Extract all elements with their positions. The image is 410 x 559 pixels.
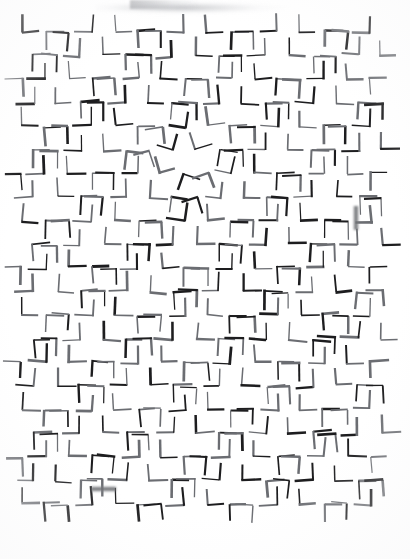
corner-mark-arm-horizontal bbox=[238, 127, 254, 128]
corner-mark-arm-vertical bbox=[167, 32, 183, 33]
corner-mark-arm-vertical bbox=[196, 291, 197, 306]
corner-mark-arm-horizontal bbox=[383, 244, 399, 245]
corner-mark-arm-vertical bbox=[242, 465, 243, 479]
corner-mark-arm-horizontal bbox=[105, 243, 120, 245]
corner-mark-arm-horizontal bbox=[226, 337, 243, 338]
corner-mark-arm-horizontal bbox=[333, 30, 348, 31]
corner-mark-arm-vertical bbox=[113, 173, 114, 189]
corner-mark-arm-vertical bbox=[254, 253, 255, 268]
corner-mark-arm-horizontal bbox=[232, 63, 233, 78]
corner-mark-arm-vertical bbox=[102, 37, 103, 54]
corner-mark-arm-horizontal bbox=[310, 244, 311, 261]
corner-mark-arm-horizontal bbox=[93, 300, 94, 315]
corner-mark-arm-vertical bbox=[29, 360, 46, 361]
corner-mark-arm-vertical bbox=[195, 416, 196, 432]
corner-mark-arm-horizontal bbox=[357, 103, 358, 118]
corner-mark-arm-vertical bbox=[347, 157, 349, 173]
corner-mark-arm-vertical bbox=[123, 173, 137, 174]
corner-mark-arm-horizontal bbox=[237, 316, 254, 317]
corner-mark-arm-horizontal bbox=[218, 244, 220, 261]
corner-mark-arm-horizontal bbox=[370, 299, 371, 316]
corner-mark-arm-horizontal bbox=[283, 175, 300, 176]
corner-mark-arm-horizontal bbox=[278, 395, 279, 411]
corner-mark-arm-horizontal bbox=[312, 340, 314, 355]
corner-mark-arm-horizontal bbox=[302, 315, 319, 316]
corner-mark-arm-vertical bbox=[371, 266, 387, 267]
corner-mark-arm-horizontal bbox=[290, 55, 305, 56]
corner-mark-arm-vertical bbox=[56, 247, 57, 262]
corner-mark-arm-horizontal bbox=[277, 205, 278, 221]
corner-mark-arm-vertical bbox=[34, 432, 51, 433]
corner-mark-arm-vertical bbox=[354, 316, 369, 317]
corner-mark-arm-horizontal bbox=[321, 56, 336, 57]
corner-mark-arm-vertical bbox=[138, 316, 154, 317]
corner-mark-arm-vertical bbox=[383, 386, 384, 402]
corner-mark-arm-horizontal bbox=[323, 314, 324, 329]
corner-mark-arm-horizontal bbox=[41, 151, 58, 152]
corner-mark-arm-vertical bbox=[157, 57, 170, 58]
corner-mark-arm-horizontal bbox=[138, 31, 139, 47]
corner-mark-arm-horizontal bbox=[206, 32, 222, 33]
corner-mark-arm-horizontal bbox=[185, 396, 186, 411]
corner-mark-arm-horizontal bbox=[192, 79, 207, 80]
corner-mark-arm-vertical bbox=[253, 155, 254, 172]
corner-mark-arm-vertical bbox=[21, 298, 22, 315]
corner-mark-arm-horizontal bbox=[359, 37, 361, 53]
corner-mark-arm-horizontal bbox=[4, 361, 20, 362]
corner-mark-arm-horizontal bbox=[191, 362, 207, 363]
corner-mark-arm-horizontal bbox=[69, 361, 86, 362]
corner-mark-arm-vertical bbox=[217, 77, 231, 78]
corner-mark-arm-horizontal bbox=[92, 396, 93, 410]
corner-mark-arm-vertical bbox=[380, 133, 381, 148]
corner-mark-arm-horizontal bbox=[103, 432, 118, 433]
corner-mark-arm-horizontal bbox=[151, 292, 166, 294]
corner-mark-arm-horizontal bbox=[369, 268, 371, 283]
corner-mark-arm-vertical bbox=[370, 360, 388, 361]
corner-mark-arm-horizontal bbox=[161, 457, 177, 458]
corner-mark-arm-horizontal bbox=[325, 505, 326, 521]
corner-mark-arm-vertical bbox=[28, 268, 46, 270]
corner-mark-arm-horizontal bbox=[46, 441, 47, 456]
corner-mark-arm-vertical bbox=[174, 384, 191, 385]
corner-mark-arm-vertical bbox=[15, 291, 32, 292]
corner-mark-arm-horizontal bbox=[196, 55, 212, 56]
corner-mark-arm-horizontal bbox=[301, 220, 316, 221]
corner-mark-arm-vertical bbox=[194, 479, 195, 497]
corner-mark-arm-vertical bbox=[355, 504, 371, 505]
corner-mark-arm-vertical bbox=[337, 181, 338, 196]
corner-mark-arm-vertical bbox=[67, 34, 68, 50]
corner-mark-arm-vertical bbox=[354, 408, 369, 409]
corner-mark-arm-vertical bbox=[64, 150, 81, 151]
corner-mark-arm-horizontal bbox=[134, 244, 149, 245]
corner-mark-arm-horizontal bbox=[312, 277, 313, 292]
corner-mark-arm-vertical bbox=[334, 466, 335, 480]
corner-mark-arm-vertical bbox=[248, 149, 264, 150]
corner-mark-arm-vertical bbox=[253, 33, 254, 49]
corner-mark-arm-horizontal bbox=[79, 39, 80, 57]
corner-mark-arm-vertical bbox=[103, 388, 104, 403]
corner-mark-arm-horizontal bbox=[357, 230, 358, 245]
corner-mark-arm-vertical bbox=[44, 502, 59, 503]
corner-mark-arm-horizontal bbox=[162, 361, 176, 362]
corner-mark-arm-horizontal bbox=[34, 87, 35, 103]
corner-mark-arm-vertical bbox=[370, 77, 386, 78]
corner-mark-arm-horizontal bbox=[42, 245, 57, 246]
corner-mark-arm-horizontal bbox=[183, 268, 184, 285]
corner-mark-arm-horizontal bbox=[115, 220, 129, 221]
corner-mark-arm-vertical bbox=[260, 505, 277, 506]
corner-mark-arm-vertical bbox=[347, 318, 349, 333]
corner-mark-arm-horizontal bbox=[69, 266, 86, 267]
corner-mark-arm-vertical bbox=[289, 38, 290, 53]
corner-mark-arm-vertical bbox=[75, 31, 92, 33]
corner-mark-arm-horizontal bbox=[44, 128, 45, 145]
corner-mark-arm-horizontal bbox=[347, 79, 362, 81]
corner-mark-arm-horizontal bbox=[365, 198, 380, 199]
corner-mark-arm-horizontal bbox=[146, 31, 161, 32]
corner-mark-arm-horizontal bbox=[44, 411, 45, 425]
corner-mark-arm-vertical bbox=[381, 229, 382, 244]
corner-mark-arm-horizontal bbox=[22, 315, 37, 316]
corner-mark-arm-vertical bbox=[299, 458, 300, 473]
corner-mark-arm-horizontal bbox=[44, 503, 46, 521]
corner-mark-arm-horizontal bbox=[337, 291, 351, 293]
corner-mark-arm-horizontal bbox=[173, 227, 174, 244]
